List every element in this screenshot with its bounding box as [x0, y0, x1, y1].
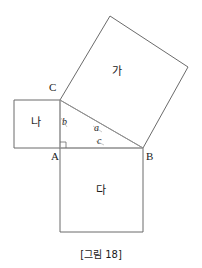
region-label-ga: 가	[112, 66, 122, 77]
side-label-b: b	[62, 117, 67, 127]
vertex-label-a: A	[51, 151, 59, 162]
square-ga	[60, 16, 188, 148]
vertex-label-b: B	[146, 151, 153, 162]
figure-caption: [그림 18]	[0, 246, 202, 261]
geometry-diagram	[0, 0, 202, 268]
region-label-na: 나	[31, 117, 41, 128]
region-label-da: 다	[96, 185, 106, 196]
side-label-a: a	[94, 123, 99, 133]
vertex-label-c: C	[49, 82, 56, 93]
right-angle-marker	[60, 142, 66, 148]
side-label-c: c	[97, 136, 101, 146]
figure-container: C A B b a c 가 나 다 [그림 18]	[0, 0, 202, 268]
